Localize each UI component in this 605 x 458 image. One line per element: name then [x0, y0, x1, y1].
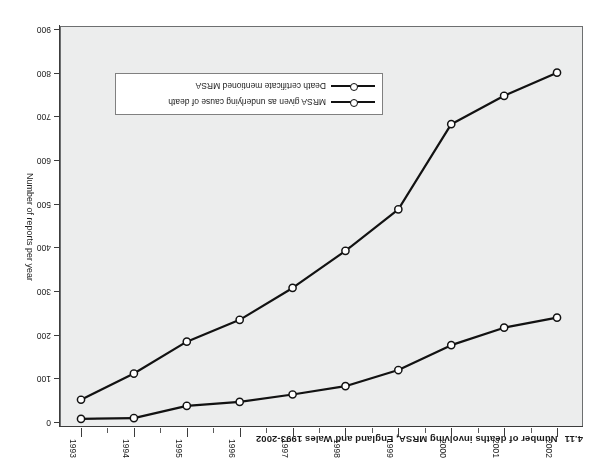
y-axis-tick-label: 500	[37, 200, 51, 210]
data-point	[448, 121, 455, 128]
y-axis-tick	[54, 160, 59, 161]
y-axis-tick-label: 600	[37, 156, 51, 166]
data-point	[342, 383, 349, 390]
data-point	[553, 69, 560, 76]
data-point	[183, 338, 190, 345]
data-point	[342, 247, 349, 254]
legend-label: MRSA given as underlying cause of death	[168, 98, 326, 108]
data-point	[130, 414, 137, 421]
y-axis-tick-label: 200	[37, 331, 51, 341]
x-axis-tick-label: 1993	[68, 439, 78, 458]
x-axis-tick	[504, 428, 505, 437]
x-axis-tick-label: 1994	[121, 439, 131, 458]
chart-title-text: Number of deaths involving MRSA, England…	[256, 434, 558, 445]
x-axis-tick-label: 2002	[544, 439, 554, 458]
legend-swatch-icon	[331, 97, 375, 108]
y-axis-tick-label: 900	[37, 25, 51, 35]
x-axis-tick-label: 1995	[174, 439, 184, 458]
x-axis-tick	[345, 428, 346, 437]
data-point	[289, 284, 296, 291]
y-axis-tick	[54, 291, 59, 292]
x-axis-tick	[81, 428, 82, 437]
data-point	[289, 391, 296, 398]
x-axis-minor-tick	[160, 428, 161, 433]
legend-item-underlying-cause: MRSA given as underlying cause of death	[123, 95, 375, 110]
x-axis-tick-label: 2000	[438, 439, 448, 458]
y-axis-tick-label: 400	[37, 243, 51, 253]
y-axis-tick-label: 800	[37, 69, 51, 79]
y-axis-line	[59, 25, 60, 427]
x-axis-minor-tick	[213, 428, 214, 433]
x-axis-minor-tick	[319, 428, 320, 433]
y-axis-tick	[54, 335, 59, 336]
y-axis-tick-label: 300	[37, 287, 51, 297]
data-point	[553, 314, 560, 321]
x-axis-tick-label: 1997	[280, 439, 290, 458]
y-axis-tick-label: 700	[37, 112, 51, 122]
x-axis-minor-tick	[266, 428, 267, 433]
data-point	[130, 370, 137, 377]
series-line-death-certificate-mentioned	[81, 73, 557, 400]
x-axis-tick	[293, 428, 294, 437]
legend-label: Death certificate mentioned MRSA	[196, 82, 326, 92]
data-point	[395, 206, 402, 213]
y-axis-tick	[54, 73, 59, 74]
y-axis-tick	[54, 378, 59, 379]
data-point	[183, 402, 190, 409]
x-axis-tick-label: 2001	[491, 439, 501, 458]
data-point	[395, 366, 402, 373]
x-axis-line	[59, 426, 583, 427]
chart-legend: MRSA given as underlying cause of death …	[115, 73, 383, 115]
x-axis-minor-tick	[478, 428, 479, 433]
x-axis-tick	[557, 428, 558, 437]
y-axis-tick-label: 0	[46, 418, 51, 428]
y-axis-tick	[54, 422, 59, 423]
x-axis-tick-label: 1999	[385, 439, 395, 458]
data-point	[501, 324, 508, 331]
y-axis-title: Number of reports per year	[25, 173, 35, 281]
x-axis-minor-tick	[425, 428, 426, 433]
legend-swatch-icon	[331, 81, 375, 92]
x-axis-tick	[451, 428, 452, 437]
x-axis-minor-tick	[531, 428, 532, 433]
x-axis-minor-tick	[372, 428, 373, 433]
data-point	[448, 342, 455, 349]
data-point	[236, 316, 243, 323]
x-axis-tick	[134, 428, 135, 437]
y-axis-tick	[54, 116, 59, 117]
x-axis-tick-label: 1998	[332, 439, 342, 458]
data-point	[77, 396, 84, 403]
x-axis-tick	[398, 428, 399, 437]
data-point	[77, 415, 84, 422]
y-axis-tick	[54, 247, 59, 248]
x-axis-minor-tick	[107, 428, 108, 433]
y-axis-tick	[54, 204, 59, 205]
y-axis-tick-label: 100	[37, 374, 51, 384]
legend-item-death-certificate-mentioned: Death certificate mentioned MRSA	[123, 79, 375, 94]
series-markers-underlying-cause	[77, 314, 560, 423]
x-axis-tick	[240, 428, 241, 437]
x-axis-tick-label: 1996	[227, 439, 237, 458]
series-markers-death-certificate-mentioned	[77, 69, 560, 403]
chart-title-number: 4.11	[565, 434, 583, 445]
series-line-underlying-cause	[81, 318, 557, 419]
data-point	[236, 398, 243, 405]
x-axis-tick	[187, 428, 188, 437]
y-axis-tick	[54, 29, 59, 30]
data-point	[501, 92, 508, 99]
